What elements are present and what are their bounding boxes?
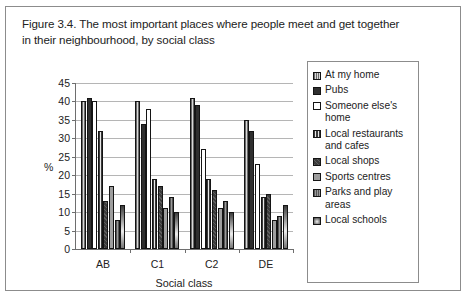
- bar: [169, 197, 174, 249]
- bar: [190, 98, 195, 249]
- bar: [81, 101, 86, 249]
- x-tick-mark: [185, 249, 186, 253]
- legend-swatch-icon: [313, 72, 321, 80]
- y-tick-mark: [72, 249, 76, 250]
- bar: [103, 201, 108, 249]
- bar-group-c1: [130, 83, 184, 249]
- legend-label: Local schools: [325, 214, 387, 226]
- bar-chart: % 051015202530354045 ABC1C2DE Social cla…: [6, 59, 462, 291]
- legend-label: At my home: [325, 69, 379, 81]
- legend-item[interactable]: Parks and play areas: [313, 186, 414, 211]
- legend-label: Local restaurants and cafes: [325, 128, 414, 153]
- legend-item[interactable]: Someone else's home: [313, 100, 414, 125]
- legend-swatch-icon: [313, 173, 321, 181]
- bar: [152, 179, 157, 249]
- x-tick-label-ab: AB: [96, 258, 110, 270]
- legend-item[interactable]: Pubs: [313, 84, 414, 96]
- legend-swatch-icon: [313, 217, 321, 225]
- y-tick-label: 35: [58, 114, 70, 126]
- legend-item[interactable]: Local schools: [313, 214, 414, 226]
- x-tick-mark: [239, 249, 240, 253]
- bar: [249, 131, 254, 249]
- legend-label: Sports centres: [325, 171, 391, 183]
- legend-label: Local shops: [325, 155, 379, 167]
- bar: [201, 149, 206, 249]
- legend-item[interactable]: Sports centres: [313, 171, 414, 183]
- legend-swatch-icon: [313, 87, 321, 95]
- figure-caption: Figure 3.4. The most important places wh…: [22, 16, 446, 47]
- bar: [120, 205, 125, 249]
- x-tick-label-de: DE: [259, 258, 274, 270]
- figure-frame: Figure 3.4. The most important places wh…: [5, 6, 461, 291]
- bar-group-ab: [76, 83, 130, 249]
- chart-legend: At my homePubsSomeone else's homeLocal r…: [307, 61, 419, 283]
- x-tick-label-c2: C2: [205, 258, 218, 270]
- bar: [174, 212, 179, 249]
- caption-line-1: Figure 3.4. The most important places wh…: [22, 16, 446, 32]
- bar: [135, 101, 140, 249]
- bar: [141, 124, 146, 249]
- y-tick-label: 5: [64, 225, 70, 237]
- bar: [244, 120, 249, 249]
- legend-swatch-icon: [313, 102, 321, 110]
- bar-group-c2: [185, 83, 239, 249]
- legend-label: Someone else's home: [325, 100, 414, 125]
- bar: [212, 190, 217, 249]
- legend-label: Pubs: [325, 84, 348, 96]
- bar: [229, 212, 234, 249]
- plot-area: 051015202530354045 ABC1C2DE: [75, 83, 293, 250]
- bar: [115, 220, 120, 250]
- y-tick-label: 40: [58, 95, 70, 107]
- y-tick-label: 30: [58, 132, 70, 144]
- legend-swatch-icon: [313, 158, 321, 166]
- y-tick-label: 45: [58, 77, 70, 89]
- bar: [92, 101, 97, 249]
- legend-item[interactable]: Local restaurants and cafes: [313, 128, 414, 153]
- x-tick-mark: [130, 249, 131, 253]
- bar: [195, 105, 200, 249]
- bar: [218, 208, 223, 249]
- legend-label: Parks and play areas: [325, 186, 414, 211]
- bar: [206, 179, 211, 249]
- bar: [272, 220, 277, 250]
- x-tick-mark: [293, 249, 294, 253]
- y-tick-label: 20: [58, 169, 70, 181]
- bar: [163, 208, 168, 249]
- x-tick-label-c1: C1: [151, 258, 164, 270]
- bar: [261, 197, 266, 249]
- x-axis-title: Social class: [75, 277, 293, 289]
- legend-item[interactable]: At my home: [313, 69, 414, 81]
- bar: [109, 186, 114, 249]
- legend-swatch-icon: [313, 130, 321, 138]
- y-tick-label: 0: [64, 243, 70, 255]
- bar: [266, 194, 271, 249]
- y-axis-title: %: [44, 83, 53, 250]
- bar: [223, 201, 228, 249]
- bar: [283, 205, 288, 249]
- y-tick-label: 25: [58, 151, 70, 163]
- bar: [98, 131, 103, 249]
- legend-item[interactable]: Local shops: [313, 155, 414, 167]
- legend-swatch-icon: [313, 189, 321, 197]
- bar: [146, 109, 151, 249]
- bar: [277, 216, 282, 249]
- caption-line-2: in their neighbourhood, by social class: [22, 32, 446, 48]
- bar-group-de: [239, 83, 293, 249]
- y-tick-label: 15: [58, 188, 70, 200]
- bar: [158, 186, 163, 249]
- bar: [255, 164, 260, 249]
- y-tick-label: 10: [58, 206, 70, 218]
- bar: [87, 98, 92, 249]
